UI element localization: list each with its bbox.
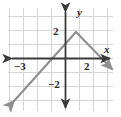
y-axis-tick-label-2: 2 bbox=[53, 26, 59, 37]
x-axis-tick-label-2: 2 bbox=[84, 61, 90, 72]
x-axis-name-label: x bbox=[104, 44, 110, 55]
x-axis-tick-label-negative-3: −3 bbox=[14, 61, 26, 72]
y-axis-name-label: y bbox=[77, 7, 82, 18]
coordinate-plane-svg bbox=[0, 0, 121, 117]
y-axis-tick-label-negative-2: −2 bbox=[48, 79, 60, 90]
graph-figure: 2 −2 2 −3 y x bbox=[0, 0, 121, 117]
